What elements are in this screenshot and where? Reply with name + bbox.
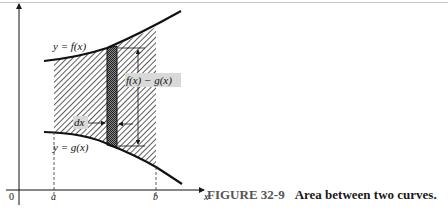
figure-caption: FIGURE 32-9Area between two curves. [207, 187, 437, 203]
area-between-curves-figure: y = f(x) y = g(x) f(x) − g(x) dx 0 a b x [0, 0, 448, 209]
figure-number: FIGURE 32-9 [207, 187, 285, 202]
label-g: y = g(x) [52, 141, 89, 154]
label-height: f(x) − g(x) [126, 74, 172, 87]
label-origin: 0 [9, 191, 14, 202]
label-f: y = f(x) [52, 40, 86, 53]
label-b: b [153, 191, 158, 202]
label-dx: dx [74, 116, 85, 128]
strip-dx [107, 46, 117, 148]
figure-caption-text: Area between two curves. [295, 187, 437, 202]
label-a: a [51, 191, 56, 202]
